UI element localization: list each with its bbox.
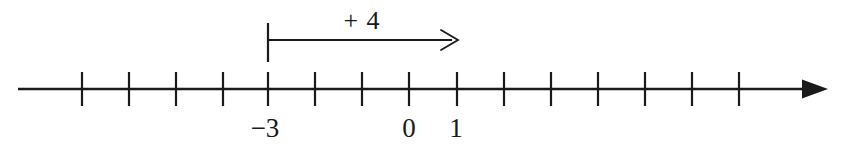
jump-amount-label: + 4 [343, 8, 380, 34]
tick-label-zero: 0 [402, 115, 416, 142]
number-line-figure: + 4 −3 0 1 [0, 0, 849, 151]
axis-arrowhead-icon [802, 80, 828, 99]
number-line-svg [0, 0, 849, 151]
tick-label-minus-three: −3 [251, 115, 280, 142]
tick-label-one: 1 [449, 115, 463, 142]
